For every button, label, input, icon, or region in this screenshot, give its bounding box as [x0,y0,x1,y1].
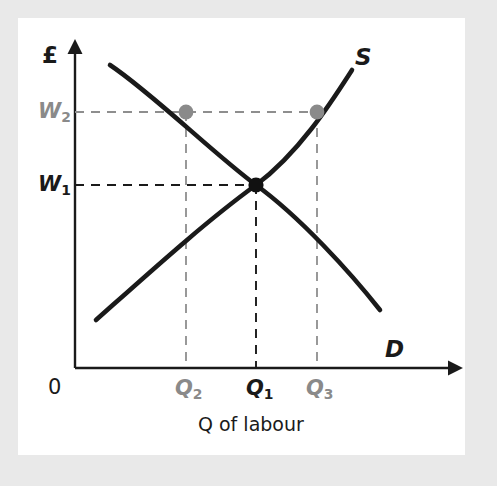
x-tick-q3-subscript: 3 [324,386,334,402]
supply-curve-label: S [355,46,372,69]
y-axis-label: £ [42,44,58,67]
x-tick-q1-subscript: 1 [264,386,274,402]
marker-supply-at-w2 [310,105,325,120]
x-tick-label-q1: Q1 [246,378,274,402]
origin-label: 0 [48,377,61,398]
x-tick-q2-subscript: 2 [193,386,203,402]
y-tick-label-w2: W2 [38,101,71,125]
demand-curve-label: D [385,338,404,361]
x-axis-caption: Q of labour [198,415,304,434]
marker-equilibrium [248,177,263,192]
y-tick-label-w1: W1 [38,174,71,198]
x-tick-label-q2: Q2 [175,378,203,402]
figure-canvas: £ W2 W1 Q2 Q1 Q3 S D 0 Q of labour [0,0,497,486]
y-tick-w2-subscript: 2 [61,109,71,125]
x-tick-q2-base: Q [175,376,193,400]
x-tick-q3-base: Q [306,376,324,400]
x-tick-label-q3: Q3 [306,378,334,402]
marker-demand-at-w2 [179,105,194,120]
y-tick-w1-base: W [38,172,61,196]
y-tick-w1-subscript: 1 [61,182,71,198]
y-tick-w2-base: W [38,99,61,123]
x-tick-q1-base: Q [246,376,264,400]
